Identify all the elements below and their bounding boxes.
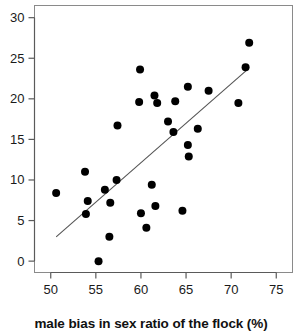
- data-point: [242, 63, 250, 71]
- data-point: [135, 98, 143, 106]
- x-tick-label: 70: [224, 282, 238, 297]
- x-axis-title: male bias in sex ratio of the flock (%): [0, 316, 302, 331]
- data-point: [105, 233, 113, 241]
- data-point: [153, 99, 161, 107]
- data-point: [169, 128, 177, 136]
- data-point: [113, 122, 121, 130]
- y-tick-label: 25: [10, 51, 24, 66]
- data-point: [150, 92, 158, 100]
- data-point: [137, 209, 145, 217]
- y-tick-label: 20: [10, 91, 24, 106]
- data-point: [106, 199, 114, 207]
- data-point: [164, 118, 172, 126]
- data-point: [205, 87, 213, 95]
- x-tick-label: 65: [179, 282, 193, 297]
- data-point: [95, 257, 103, 265]
- data-point: [245, 39, 253, 47]
- x-tick-label: 55: [89, 282, 103, 297]
- data-point: [113, 176, 121, 184]
- x-tick-label: 60: [134, 282, 148, 297]
- data-point: [184, 83, 192, 91]
- x-axis: 505560657075: [44, 273, 284, 297]
- x-tick-label: 50: [44, 282, 58, 297]
- data-point: [52, 189, 60, 197]
- data-point: [142, 224, 150, 232]
- data-point: [184, 141, 192, 149]
- data-point: [194, 125, 202, 133]
- y-tick-label: 0: [17, 254, 24, 269]
- y-axis: 051015202530: [10, 10, 34, 268]
- data-point: [101, 186, 109, 194]
- data-point: [185, 152, 193, 160]
- data-point: [171, 97, 179, 105]
- data-point: [151, 202, 159, 210]
- data-point: [234, 99, 242, 107]
- data-point: [81, 168, 89, 176]
- data-point: [178, 207, 186, 215]
- plot-frame: [35, 6, 293, 273]
- data-point: [148, 181, 156, 189]
- y-tick-label: 10: [10, 172, 24, 187]
- y-tick-label: 5: [17, 213, 24, 228]
- data-point: [82, 210, 90, 218]
- data-point: [84, 197, 92, 205]
- plot-canvas: 051015202530 505560657075: [0, 0, 302, 335]
- x-tick-label: 75: [269, 282, 283, 297]
- y-tick-label: 30: [10, 10, 24, 25]
- scatter-plot-figure: 051015202530 505560657075 male bias in s…: [0, 0, 302, 335]
- y-tick-label: 15: [10, 132, 24, 147]
- data-point: [136, 66, 144, 74]
